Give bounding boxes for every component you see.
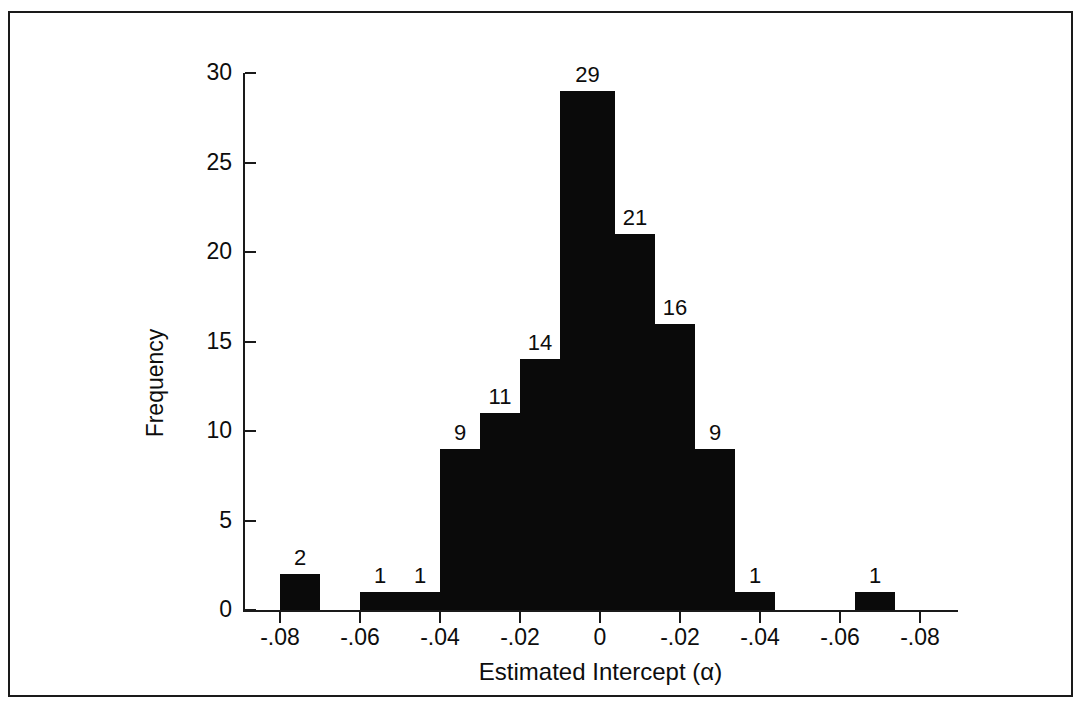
y-tick-label: 10 (172, 419, 232, 442)
x-tick-3 (519, 612, 521, 623)
x-tick-1 (359, 612, 361, 623)
x-axis-title: Estimated Intercept (α) (243, 658, 958, 686)
bar-9a (440, 449, 480, 610)
y-tick-30 (245, 72, 256, 74)
x-tick-8 (919, 612, 921, 623)
x-tick-0 (279, 612, 281, 623)
y-tick-label: 15 (172, 330, 232, 353)
x-tick-label: -.06 (795, 626, 885, 649)
bar-21 (615, 234, 655, 610)
x-tick-label: -.08 (875, 626, 965, 649)
y-axis-title: Frequency (128, 38, 155, 268)
x-tick-label: -.04 (715, 626, 805, 649)
x-tick-label: 0 (555, 626, 645, 649)
y-tick-15 (245, 341, 256, 343)
y-tick-label: 20 (172, 240, 232, 263)
bar-value-label: 16 (640, 297, 710, 319)
y-tick-25 (245, 162, 256, 164)
y-axis-title-text: Frequency (142, 268, 169, 498)
bar-1b (400, 592, 440, 610)
x-tick-label: -.04 (395, 626, 485, 649)
x-tick-label: -.02 (475, 626, 565, 649)
x-tick-4 (599, 612, 601, 623)
y-tick-label: 25 (172, 151, 232, 174)
y-tick-10 (245, 430, 256, 432)
bar-16 (655, 324, 695, 610)
bar-value-label: 1 (840, 565, 910, 587)
x-tick-2 (439, 612, 441, 623)
y-axis-line (243, 73, 245, 612)
bar-14 (520, 359, 560, 610)
bar-value-label: 2 (265, 547, 335, 569)
x-tick-6 (759, 612, 761, 623)
bar-value-label: 21 (600, 207, 670, 229)
y-tick-5 (245, 520, 256, 522)
y-tick-label: 0 (172, 598, 232, 621)
figure-border: 051015202530 -.08-.06-.04-.020-.02-.04-.… (8, 11, 1073, 697)
y-tick-20 (245, 251, 256, 253)
y-tick-label: 30 (172, 61, 232, 84)
x-tick-label: -.02 (635, 626, 725, 649)
y-tick-0 (245, 609, 256, 611)
x-tick-label: -.06 (315, 626, 405, 649)
bar-1d (855, 592, 895, 610)
bar-29 (560, 91, 615, 610)
x-tick-7 (839, 612, 841, 623)
x-tick-label: -.08 (235, 626, 325, 649)
x-tick-5 (679, 612, 681, 623)
bar-value-label: 29 (553, 64, 623, 86)
bar-value-label: 9 (680, 422, 750, 444)
figure-canvas: 051015202530 -.08-.06-.04-.020-.02-.04-.… (0, 0, 1085, 709)
bar-value-label: 1 (720, 565, 790, 587)
bar-2 (280, 574, 320, 610)
bar-1c (735, 592, 775, 610)
bar-11 (480, 413, 520, 610)
bar-1a (360, 592, 400, 610)
y-tick-label: 5 (172, 509, 232, 532)
